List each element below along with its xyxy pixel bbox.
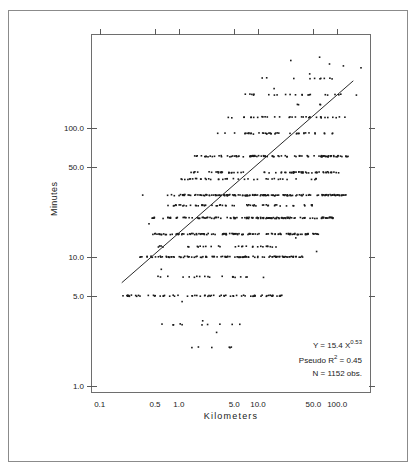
- x-axis-title: Kilometers: [204, 411, 259, 421]
- y-tick-right: [369, 296, 375, 297]
- x-tick-top: [155, 29, 156, 35]
- y-tick-label: 1.0: [73, 382, 84, 391]
- statistics-annotation: Y = 15.4 X0.53 Pseudo R2 = 0.45 N = 1152…: [299, 336, 362, 380]
- regression-line: [122, 81, 354, 283]
- x-tick-top: [100, 29, 101, 35]
- figure-frame: Minutes Kilometers 1.05.010.050.0100.00.…: [8, 10, 408, 462]
- y-tick-label: 5.0: [73, 291, 84, 300]
- y-tick-inner: [92, 167, 97, 168]
- y-tick-inner: [92, 257, 97, 258]
- x-tick-top: [179, 29, 180, 35]
- plot-area: 1.05.010.050.0100.00.10.51.05.010.050.01…: [91, 34, 371, 393]
- x-tick-label: 0.1: [94, 400, 105, 409]
- x-tick-label: 10.0: [250, 400, 266, 409]
- equation-text: Y = 15.4 X0.53: [299, 336, 362, 352]
- y-tick-label: 50.0: [68, 162, 84, 171]
- x-tick-top: [313, 29, 314, 35]
- pseudo-r2-text: Pseudo R2 = 0.45: [299, 351, 362, 367]
- y-tick-right: [369, 167, 375, 168]
- x-tick-label: 50.0: [306, 400, 322, 409]
- y-tick-right: [369, 257, 375, 258]
- y-tick-inner: [92, 296, 97, 297]
- y-tick-label: 10.0: [68, 252, 84, 261]
- x-tick-top: [337, 29, 338, 35]
- data-points-group: [122, 56, 362, 348]
- y-tick-inner: [92, 386, 97, 387]
- n-observations-text: N = 1152 obs.: [299, 367, 362, 380]
- x-tick-top: [258, 29, 259, 35]
- x-tick-label: 1.0: [173, 400, 184, 409]
- x-tick-top: [234, 29, 235, 35]
- y-tick-label: 100.0: [64, 123, 84, 132]
- y-axis-title: Minutes: [49, 182, 59, 216]
- y-tick-inner: [92, 128, 97, 129]
- equation-exponent: 0.53: [350, 339, 362, 345]
- x-tick-label: 100.0: [327, 400, 347, 409]
- clipped-page-header: [72, 0, 272, 3]
- x-tick-label: 5.0: [229, 400, 240, 409]
- y-tick-right: [369, 386, 375, 387]
- y-tick-right: [369, 128, 375, 129]
- x-tick-label: 0.5: [149, 400, 160, 409]
